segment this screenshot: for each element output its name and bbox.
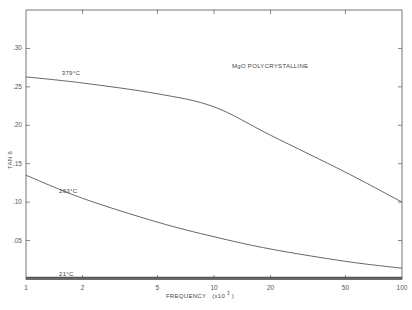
x-tick-label: 5 bbox=[156, 284, 160, 291]
y-tick-label: .05 bbox=[13, 237, 22, 244]
x-tick-label: 100 bbox=[397, 284, 408, 291]
x-axis-label: FREQUENCY (x10 3 ) bbox=[166, 290, 234, 299]
plot-frame bbox=[26, 10, 402, 279]
y-tick-label: .20 bbox=[13, 121, 22, 128]
tan-delta-frequency-chart: .05.10.15.20.25.30 125102050100 379°C263… bbox=[0, 0, 412, 310]
series-label: 263°C bbox=[59, 188, 78, 194]
x-tick-label: 20 bbox=[267, 284, 275, 291]
x-tick-label: 2 bbox=[81, 284, 85, 291]
chart-title: MgO POLYCRYSTALLINE bbox=[232, 63, 308, 69]
data-series: 379°C263°C21°C bbox=[26, 70, 402, 278]
series-label: 379°C bbox=[62, 70, 81, 76]
y-tick-label: .30 bbox=[13, 44, 22, 51]
series-line bbox=[26, 77, 402, 202]
y-tick-label: .25 bbox=[13, 83, 22, 90]
x-axis-ticks: 125102050100 bbox=[24, 10, 408, 291]
y-tick-label: .10 bbox=[13, 198, 22, 205]
series-line bbox=[26, 175, 402, 268]
y-axis-label: TAN δ bbox=[7, 151, 13, 169]
x-tick-label: 50 bbox=[342, 284, 350, 291]
x-tick-label: 10 bbox=[210, 284, 218, 291]
series-label: 21°C bbox=[59, 271, 74, 277]
x-tick-label: 1 bbox=[24, 284, 28, 291]
y-tick-label: .15 bbox=[13, 160, 22, 167]
